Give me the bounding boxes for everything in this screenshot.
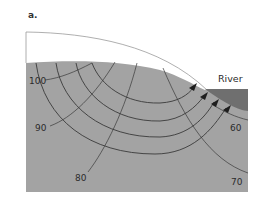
equipotential-label-100: 100: [29, 76, 46, 86]
equipotential-label-60: 60: [230, 123, 242, 133]
equipotential-label-90: 90: [35, 123, 47, 133]
panel-label: a.: [28, 10, 38, 20]
equipotential-label-70: 70: [231, 177, 243, 187]
aquifer-region: [26, 61, 248, 192]
groundwater-flow-diagram: a. River 100 90 80 70 60: [0, 0, 265, 208]
equipotential-label-80: 80: [75, 173, 87, 183]
river-label: River: [218, 73, 243, 84]
